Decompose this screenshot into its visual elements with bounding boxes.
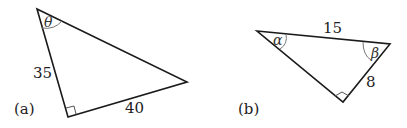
- side-label-8: 8: [366, 73, 376, 91]
- angle-label-beta: β: [370, 45, 379, 61]
- right-angle-marker-b: [335, 92, 349, 96]
- side-label-35: 35: [33, 64, 52, 82]
- caption-a: (a): [14, 100, 35, 118]
- triangle-b: α β 15 8 (b): [238, 19, 390, 118]
- angle-label-theta: θ: [44, 14, 53, 30]
- diagram-canvas: θ 35 40 (a) α β 15 8 (b): [0, 0, 407, 128]
- angle-label-alpha: α: [273, 32, 283, 48]
- side-label-15: 15: [323, 19, 342, 37]
- triangle-a: θ 35 40 (a): [14, 9, 187, 118]
- caption-b: (b): [238, 100, 259, 118]
- angle-arc-beta: [363, 42, 371, 60]
- side-label-40: 40: [125, 99, 144, 117]
